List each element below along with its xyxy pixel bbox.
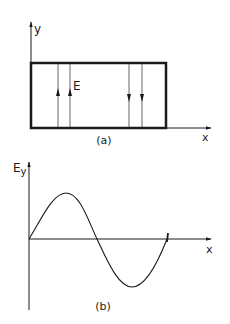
waveguide-cross-section xyxy=(31,63,166,128)
figure-b: Ey x (b) xyxy=(13,161,213,313)
x-axis-label-b: x xyxy=(206,243,213,256)
y-axis-label-b: Ey xyxy=(13,161,27,177)
period-end-tick xyxy=(167,233,168,242)
x-axis-label-a: x xyxy=(202,131,209,144)
sine-curve xyxy=(29,193,167,287)
caption-a: (a) xyxy=(96,134,111,147)
arrow-down-icon xyxy=(127,94,131,102)
field-label-e: E xyxy=(73,79,81,93)
y-axis-label-a: y xyxy=(34,22,41,36)
arrow-down-icon xyxy=(140,94,144,102)
figure-a: y x E (a) xyxy=(31,22,211,147)
diagram-canvas: y x E (a) Ey x (b) xyxy=(0,0,230,324)
arrow-up-icon xyxy=(56,88,60,96)
caption-b: (b) xyxy=(95,300,111,313)
arrow-up-icon xyxy=(68,88,72,96)
